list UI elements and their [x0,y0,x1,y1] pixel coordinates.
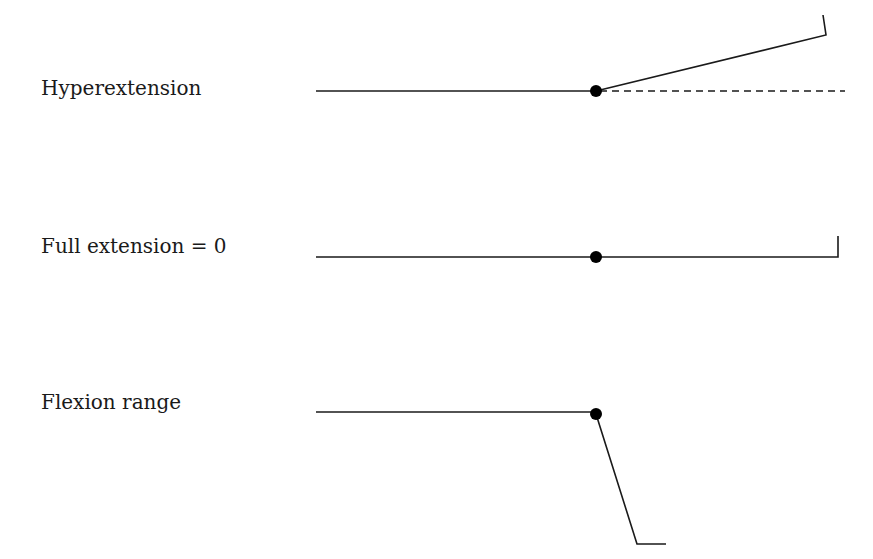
joint-dot-icon [590,85,602,97]
hyperextension-figure [316,15,845,91]
joint-dot-icon [590,251,602,263]
joint-angle-diagram [0,0,873,559]
joint-dot-icon [590,408,602,420]
full-extension-figure [316,236,838,257]
flexion-figure [316,412,666,544]
